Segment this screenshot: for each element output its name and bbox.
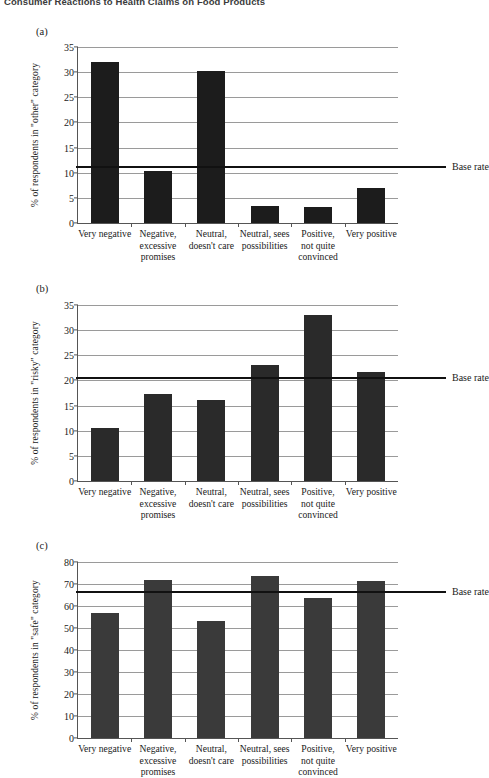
plot-area-1: 05101520253035Very negativeNegative, exc…: [77, 47, 398, 224]
y-tick-label: 25: [64, 350, 74, 361]
plot-area-3: 01020304050607080Very negativeNegative, …: [77, 562, 398, 739]
bar: [251, 365, 279, 481]
y-tick-mark: [74, 605, 78, 606]
gridline: [78, 694, 398, 695]
y-axis-label-3: % of respondents in "safe" category: [30, 562, 40, 738]
x-tick-mark: [185, 481, 186, 485]
bar: [304, 598, 332, 738]
y-tick-mark: [74, 122, 78, 123]
x-tick-mark: [131, 223, 132, 227]
y-tick-mark: [74, 649, 78, 650]
y-tick-label: 30: [64, 667, 74, 678]
gridline: [78, 380, 398, 381]
y-tick-mark: [74, 693, 78, 694]
x-tick-mark: [131, 738, 132, 742]
gridline: [78, 431, 398, 432]
y-tick-mark: [74, 147, 78, 148]
y-tick-mark: [74, 455, 78, 456]
bar: [144, 171, 172, 223]
base-rate-label: Base rate: [452, 160, 489, 171]
x-tick-mark: [291, 738, 292, 742]
base-rate-label: Base rate: [452, 372, 489, 383]
panel-tag-3: (c): [36, 540, 48, 551]
gridline: [78, 650, 398, 651]
y-tick-label: 70: [64, 579, 74, 590]
bar: [197, 621, 225, 738]
y-tick-mark: [74, 172, 78, 173]
x-category-label: Very positive: [336, 486, 407, 498]
base-rate-line: [76, 591, 446, 593]
y-tick-label: 20: [64, 375, 74, 386]
gridline: [78, 584, 398, 585]
base-rate-line: [76, 377, 446, 379]
y-tick-mark: [74, 72, 78, 73]
y-tick-label: 0: [69, 733, 74, 744]
bar: [91, 613, 119, 738]
y-axis-label-1: % of respondents in "other" category: [30, 47, 40, 223]
y-tick-label: 0: [69, 476, 74, 487]
y-tick-label: 35: [64, 42, 74, 53]
gridline: [78, 606, 398, 607]
y-tick-mark: [74, 197, 78, 198]
bar: [91, 428, 119, 481]
gridline: [78, 122, 398, 123]
y-tick-label: 10: [64, 425, 74, 436]
bar: [144, 580, 172, 738]
y-tick-label: 60: [64, 601, 74, 612]
y-axis-label-2: % of respondents in "risky" category: [30, 305, 40, 481]
gridline: [78, 97, 398, 98]
y-tick-mark: [74, 405, 78, 406]
gridline: [78, 305, 398, 306]
gridline: [78, 355, 398, 356]
gridline: [78, 198, 398, 199]
x-tick-mark: [238, 738, 239, 742]
x-tick-mark: [345, 738, 346, 742]
y-tick-label: 25: [64, 92, 74, 103]
bar: [357, 372, 385, 481]
x-tick-mark: [185, 738, 186, 742]
y-tick-mark: [74, 480, 78, 481]
y-tick-label: 0: [69, 218, 74, 229]
x-tick-mark: [238, 223, 239, 227]
y-tick-mark: [74, 737, 78, 738]
bar: [357, 581, 385, 738]
bar: [197, 71, 225, 223]
gridline: [78, 456, 398, 457]
y-tick-label: 20: [64, 689, 74, 700]
gridline: [78, 562, 398, 563]
gridline: [78, 330, 398, 331]
running-header: Consumer Reactions to Health Claims on F…: [4, 0, 478, 8]
gridline: [78, 173, 398, 174]
x-tick-mark: [345, 223, 346, 227]
y-tick-mark: [74, 671, 78, 672]
bar: [197, 400, 225, 481]
y-tick-mark: [74, 627, 78, 628]
y-tick-label: 40: [64, 645, 74, 656]
x-tick-mark: [238, 481, 239, 485]
gridline: [78, 148, 398, 149]
y-tick-label: 5: [69, 192, 74, 203]
y-tick-label: 15: [64, 400, 74, 411]
x-tick-mark: [185, 223, 186, 227]
gridline: [78, 72, 398, 73]
y-tick-mark: [74, 355, 78, 356]
y-tick-mark: [74, 715, 78, 716]
x-tick-mark: [131, 481, 132, 485]
base-rate-line: [76, 166, 446, 168]
bar: [251, 206, 279, 223]
y-tick-mark: [74, 583, 78, 584]
gridline: [78, 628, 398, 629]
panel-tag-1: (a): [36, 26, 48, 37]
y-tick-label: 15: [64, 142, 74, 153]
panel-tag-2: (b): [36, 283, 48, 294]
plot-area-2: 05101520253035Very negativeNegative, exc…: [77, 305, 398, 482]
y-tick-mark: [74, 304, 78, 305]
gridline: [78, 406, 398, 407]
x-tick-mark: [291, 481, 292, 485]
bar: [304, 207, 332, 223]
gridline: [78, 47, 398, 48]
y-tick-mark: [74, 561, 78, 562]
base-rate-label: Base rate: [452, 585, 489, 596]
y-tick-label: 30: [64, 67, 74, 78]
y-tick-label: 10: [64, 167, 74, 178]
